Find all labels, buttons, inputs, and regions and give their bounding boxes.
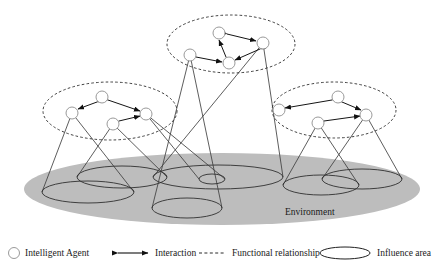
- functional-relationship-boundary: [272, 82, 396, 138]
- intelligent-agent-node[interactable]: [96, 91, 108, 103]
- intelligent-agent-node[interactable]: [312, 117, 324, 129]
- functional-relationship-boundary: [43, 82, 177, 140]
- intelligent-agent-node[interactable]: [213, 27, 225, 39]
- legend-item-influence: Influence area: [320, 247, 432, 259]
- interaction-edge: [219, 40, 226, 57]
- interaction-edge: [342, 102, 361, 110]
- interaction-edges-left: [78, 100, 140, 121]
- cluster-right: [272, 82, 396, 138]
- legend-label-interaction: Interaction: [155, 248, 196, 258]
- interaction-edge: [78, 102, 97, 109]
- interaction-edge: [108, 100, 140, 111]
- legend: Intelligent Agent Interaction Functional…: [9, 247, 432, 259]
- intelligent-agent-node[interactable]: [257, 37, 269, 49]
- legend-item-agent: Intelligent Agent: [9, 248, 90, 259]
- legend-label-influence: Influence area: [377, 248, 432, 258]
- legend-item-functional: Functional relationship: [199, 248, 320, 258]
- interaction-edge: [196, 57, 222, 62]
- intelligent-agent-node[interactable]: [107, 118, 119, 130]
- legend-label-agent: Intelligent Agent: [25, 248, 89, 258]
- environment-label: Environment: [285, 207, 335, 217]
- interaction-edge: [285, 100, 332, 108]
- legend-label-functional: Functional relationship: [232, 248, 320, 258]
- cluster-top: [167, 15, 295, 73]
- cluster-left: [43, 82, 177, 140]
- intelligent-agent-node[interactable]: [140, 108, 152, 120]
- interaction-edge: [235, 49, 260, 60]
- intelligent-agent-node[interactable]: [273, 104, 285, 116]
- intelligent-agent-node[interactable]: [332, 91, 344, 103]
- intelligent-agent-node[interactable]: [184, 49, 196, 61]
- intelligent-agent-node[interactable]: [223, 57, 235, 69]
- intelligent-agent-node[interactable]: [360, 109, 372, 121]
- interaction-edge: [227, 34, 256, 41]
- diagram-root: Environment Intelligent Agent Interactio…: [0, 0, 441, 272]
- interaction-edge: [324, 116, 360, 121]
- ellipse-outline-icon: [320, 247, 370, 259]
- multi-agent-environment-diagram: Environment Intelligent Agent Interactio…: [0, 0, 441, 272]
- interaction-edge: [119, 116, 140, 121]
- interaction-edges-right: [285, 100, 361, 121]
- legend-item-interaction: Interaction: [118, 248, 196, 258]
- intelligent-agent-node[interactable]: [66, 107, 78, 119]
- circle-outline-icon: [9, 248, 20, 259]
